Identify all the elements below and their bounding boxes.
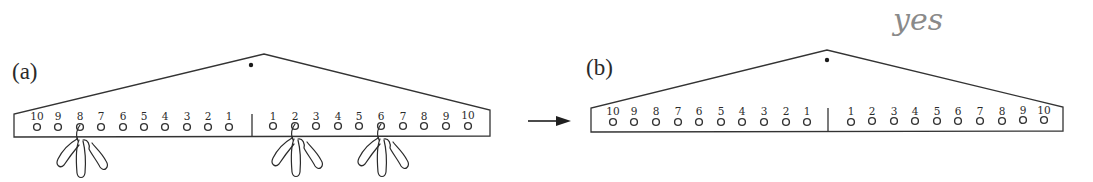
peg-hole (270, 123, 277, 130)
hole-label: 9 (55, 110, 62, 122)
annotation-text: yes (891, 2, 943, 37)
hole-label: 3 (184, 110, 191, 122)
hole-label: 2 (783, 105, 790, 117)
peg-hole (912, 118, 919, 125)
hole-label: 6 (378, 110, 385, 122)
hole-label: 6 (955, 105, 962, 117)
left-arm: 10 9 8 7 6 5 4 3 2 1 (606, 105, 810, 125)
hole-label: 3 (313, 110, 320, 122)
peg-hole (465, 123, 472, 130)
hole-label: 10 (1037, 104, 1050, 116)
pivot-point-icon (825, 58, 829, 62)
peg-hole (1020, 117, 1027, 124)
peg-hole (891, 118, 898, 125)
peg-hole (934, 118, 941, 125)
balance-beam-outline (591, 50, 1063, 132)
hole-label: 4 (335, 110, 342, 122)
right-arm: 1 2 3 4 5 6 7 8 9 10 (270, 109, 475, 129)
peg-hole (34, 124, 41, 131)
peg-hole (783, 119, 790, 126)
peg-hole (205, 124, 212, 131)
hole-label: 1 (226, 110, 233, 122)
hole-label: 1 (270, 110, 277, 122)
hole-label: 6 (120, 110, 127, 122)
peg-hole (696, 119, 703, 126)
hole-label: 5 (141, 110, 148, 122)
hole-label: 8 (653, 105, 660, 117)
peg-hole (999, 118, 1006, 125)
peg-hole (653, 119, 660, 126)
peg-hole (162, 124, 169, 131)
hole-label: 7 (98, 110, 105, 122)
peg-hole (869, 118, 876, 125)
peg-hole (848, 119, 855, 126)
peg-hole (226, 124, 233, 131)
panel-b-label: (b) (586, 55, 613, 80)
hole-label: 9 (1020, 104, 1027, 116)
peg-hole (675, 119, 682, 126)
hole-label: 2 (205, 110, 212, 122)
hole-label: 4 (739, 105, 746, 117)
handwritten-annotation: yes (891, 2, 943, 37)
hole-label: 1 (848, 105, 855, 117)
hole-label: 1 (804, 105, 811, 117)
hole-label: 8 (77, 110, 84, 122)
peg-hole (1041, 117, 1048, 124)
hole-label: 8 (421, 110, 428, 122)
hole-label: 10 (30, 110, 43, 122)
hole-label: 9 (443, 110, 450, 122)
hole-label: 5 (718, 105, 725, 117)
right-arrow-icon (528, 116, 571, 126)
peg-hole (631, 119, 638, 126)
hole-label: 2 (869, 105, 876, 117)
panel-b: (b) 10 9 8 7 6 5 4 3 2 1 1 (586, 50, 1063, 132)
paper-clip-weight-right-2 (272, 124, 322, 177)
peg-hole (610, 119, 617, 126)
pivot-point-icon (249, 63, 253, 67)
hole-label: 7 (675, 105, 682, 117)
peg-hole (313, 123, 320, 130)
paper-clip-weight-left-8 (57, 125, 107, 178)
peg-hole (400, 123, 407, 130)
paper-clip-weight-right-6 (358, 124, 408, 177)
hole-label: 6 (696, 105, 703, 117)
hole-label: 2 (292, 110, 299, 122)
peg-hole (718, 119, 725, 126)
balance-beam-figure: yes (a) 10 9 8 7 6 5 4 3 2 1 (0, 0, 1093, 182)
peg-hole (443, 123, 450, 130)
left-arm: 10 9 8 7 6 5 4 3 2 1 (30, 110, 232, 130)
peg-hole (739, 119, 746, 126)
peg-hole (977, 118, 984, 125)
hole-label: 9 (631, 105, 638, 117)
peg-hole (804, 119, 811, 126)
hole-label: 5 (356, 110, 363, 122)
hole-label: 8 (999, 105, 1006, 117)
hole-label: 4 (912, 105, 919, 117)
peg-hole (141, 124, 148, 131)
hole-label: 5 (934, 105, 941, 117)
hole-label: 3 (891, 105, 898, 117)
peg-hole (356, 123, 363, 130)
peg-hole (335, 123, 342, 130)
hole-label: 10 (461, 109, 474, 121)
peg-hole (55, 124, 62, 131)
hole-label: 10 (606, 105, 619, 117)
peg-hole (955, 118, 962, 125)
right-arm: 1 2 3 4 5 6 7 8 9 10 (848, 104, 1051, 125)
peg-hole (184, 124, 191, 131)
peg-hole (120, 124, 127, 131)
peg-hole (761, 119, 768, 126)
panel-a-label: (a) (12, 59, 38, 84)
hole-label: 7 (977, 105, 984, 117)
hole-label: 7 (400, 110, 407, 122)
panel-a: (a) 10 9 8 7 6 5 4 3 2 1 (12, 54, 490, 178)
hole-label: 3 (761, 105, 768, 117)
peg-hole (421, 123, 428, 130)
hole-label: 4 (162, 110, 169, 122)
peg-hole (98, 124, 105, 131)
